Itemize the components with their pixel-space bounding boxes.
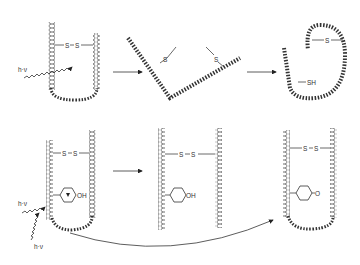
panel-bottom-3: S S O: [283, 128, 337, 229]
reaction-diagram: S S h·ν S S S SH S S: [0, 0, 360, 265]
sulfur-label: S: [314, 145, 319, 152]
helix-bottom: [51, 88, 97, 100]
helix-right: [89, 130, 96, 218]
helix-right: [93, 33, 100, 90]
helix-chain: [128, 38, 240, 98]
ketone-label: O: [315, 190, 320, 197]
panel-top-2: S S: [128, 38, 240, 98]
helix-bottom: [52, 216, 92, 230]
sulfur-label: S: [163, 56, 168, 63]
hydroxyl-label: OH: [186, 192, 196, 199]
helix-right: [330, 128, 337, 218]
hydroxyl-label: OH: [77, 192, 87, 199]
panel-top-1: S S h·ν: [18, 22, 100, 100]
thiol-label: SH: [307, 79, 316, 86]
sulfur-label: S: [73, 150, 78, 157]
helix-left: [158, 128, 165, 230]
light-label: h·ν: [18, 66, 27, 73]
photon-arrow: [22, 207, 45, 213]
helix-chain: [284, 25, 345, 98]
cyclohexadienone-ring: [296, 186, 312, 200]
sulfur-label: S: [62, 150, 67, 157]
benzene-ring: [170, 188, 186, 202]
photon-arrow: [31, 213, 39, 240]
helix-right: [215, 128, 222, 228]
helix-bottom: [288, 216, 333, 229]
sulfur-label: S: [65, 42, 70, 49]
sulfur-label: S: [325, 37, 330, 44]
light-label: h·ν: [34, 243, 43, 250]
sulfur-label: S: [75, 42, 80, 49]
helix-left: [46, 140, 53, 220]
helix-left: [283, 130, 290, 218]
helix-left: [48, 22, 55, 90]
panel-top-3: S SH: [284, 25, 345, 98]
light-label: h·ν: [18, 200, 27, 207]
panel-bottom-2: S S OH: [158, 128, 222, 230]
panel-bottom-1: S S OH h·ν h·ν: [18, 130, 96, 250]
sulfur-label: S: [191, 151, 196, 158]
sulfur-label: S: [303, 145, 308, 152]
curved-reaction-arrow: [70, 220, 273, 246]
sulfur-label: S: [179, 151, 184, 158]
